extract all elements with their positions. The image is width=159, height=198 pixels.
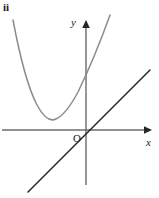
graph-canvas (0, 0, 159, 198)
straight-line (28, 70, 150, 192)
y-axis (82, 20, 90, 185)
x-axis-label: x (146, 137, 151, 148)
graph-figure: ii y x O (0, 0, 159, 198)
origin-label: O (73, 133, 81, 144)
x-axis-arrowhead-icon (144, 126, 152, 134)
part-label: ii (3, 2, 9, 13)
parabola-curve (13, 15, 110, 120)
y-axis-arrowhead-icon (82, 20, 90, 28)
y-axis-label: y (71, 17, 76, 28)
